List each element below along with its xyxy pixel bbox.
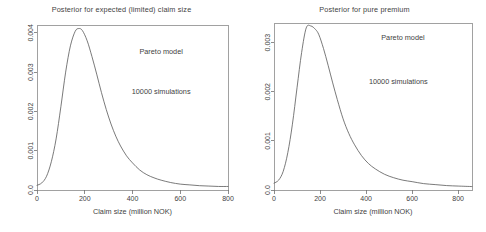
plot-annotation-1: 10000 simulations	[369, 77, 428, 86]
plot-panel-left: Posterior for expected (limited) claim s…	[0, 0, 243, 232]
x-tick-label: 0	[272, 195, 276, 202]
y-tick-label: 0.002	[264, 83, 271, 101]
density-curve-path	[274, 25, 472, 186]
x-tick-label: 800	[452, 195, 464, 202]
y-tick-label: 0.001	[264, 132, 271, 150]
x-tick-label: 0	[35, 195, 39, 202]
plot-box-frame	[37, 25, 228, 190]
y-tick-label: 0.002	[27, 103, 34, 121]
y-tick-label: 0.0	[27, 185, 34, 195]
density-curve-path	[37, 28, 228, 186]
plot-area-left: 02004006008000.00.0010.0020.0030.004Clai…	[0, 0, 243, 232]
x-axis-title: Claim size (million NOK)	[93, 207, 172, 216]
plot-area-right: 02004006008000.00.0010.0020.003Claim siz…	[243, 0, 486, 232]
figure-canvas: Posterior for expected (limited) claim s…	[0, 0, 486, 232]
y-tick-label: 0.0	[264, 185, 271, 195]
y-tick-label: 0.004	[27, 24, 34, 42]
x-tick-label: 800	[222, 195, 234, 202]
plot-box-frame	[274, 23, 472, 190]
plot-annotation-0: Pareto model	[381, 33, 425, 42]
plot-annotation-1: 10000 simulations	[132, 87, 191, 96]
y-tick-label: 0.003	[264, 34, 271, 52]
x-tick-label: 400	[360, 195, 372, 202]
y-tick-label: 0.003	[27, 63, 34, 81]
x-tick-label: 600	[174, 195, 186, 202]
x-tick-label: 200	[79, 195, 91, 202]
plot-annotation-0: Pareto model	[139, 47, 183, 56]
plot-panel-right: Posterior for pure premium 0200400600800…	[243, 0, 486, 232]
y-tick-label: 0.001	[27, 142, 34, 160]
x-tick-label: 200	[314, 195, 326, 202]
x-axis-title: Claim size (million NOK)	[333, 207, 412, 216]
x-tick-label: 400	[127, 195, 139, 202]
x-tick-label: 600	[406, 195, 418, 202]
